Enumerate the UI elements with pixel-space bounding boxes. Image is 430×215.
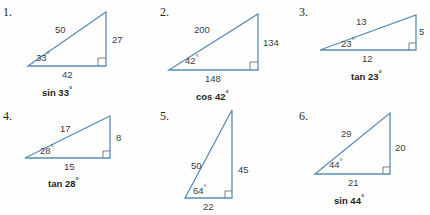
right-angle-icon-6	[383, 167, 390, 174]
hypotenuse-label-1: 50	[55, 25, 66, 35]
trig-expression-1: sin 33°	[42, 88, 72, 98]
right-angle-icon-1	[98, 58, 106, 66]
hypotenuse-label-5: 50	[191, 161, 202, 171]
triangle-outline-2	[169, 14, 258, 70]
angle-label-2: 42°	[185, 56, 199, 66]
hypotenuse-label-4: 17	[60, 124, 71, 134]
right-angle-icon-5	[225, 191, 232, 198]
trig-expression-6: sin 44°	[334, 196, 364, 206]
triangle-outline-6	[315, 113, 390, 174]
adjacent-label-4: 15	[64, 162, 75, 172]
angle-label-1: 33°	[36, 53, 50, 63]
opposite-label-6: 20	[395, 143, 406, 153]
problem-panel-2: 2. 200 134 148 42° cos 42°	[143, 0, 286, 107]
worksheet-page: 1. 50 27 42 33° sin 33° 2. 200 134 148 4…	[0, 0, 430, 215]
angle-label-4: 28°	[40, 146, 54, 156]
angle-label-6: 44°	[329, 160, 343, 170]
problem-panel-3: 3. 13 5 12 23° tan 23°	[286, 0, 429, 107]
adjacent-label-5: 22	[203, 202, 214, 212]
triangle-outline-3	[320, 15, 416, 50]
right-angle-icon-4	[103, 151, 110, 158]
adjacent-label-6: 21	[348, 178, 359, 188]
hypotenuse-label-6: 29	[341, 129, 352, 139]
opposite-label-3: 5	[419, 27, 424, 37]
problem-panel-1: 1. 50 27 42 33° sin 33°	[0, 0, 143, 107]
angle-label-5: 64°	[193, 186, 207, 196]
hypotenuse-label-3: 13	[356, 17, 367, 27]
problem-panel-5: 5. 50 45 22 64°	[143, 107, 286, 214]
problem-panel-6: 6. 29 20 21 44° sin 44°	[286, 107, 429, 214]
hypotenuse-label-2: 200	[194, 25, 210, 35]
opposite-label-2: 134	[263, 38, 279, 48]
opposite-label-5: 45	[238, 165, 249, 175]
opposite-label-4: 8	[116, 133, 121, 143]
adjacent-label-1: 42	[62, 70, 73, 80]
problem-panel-4: 4. 17 8 15 28° tan 28°	[0, 107, 143, 214]
right-angle-icon-3	[409, 43, 416, 50]
triangle-figure-5	[143, 107, 286, 214]
adjacent-label-3: 12	[362, 54, 373, 64]
right-angle-icon-2	[250, 62, 258, 70]
trig-expression-3: tan 23°	[351, 72, 382, 82]
adjacent-label-2: 148	[205, 74, 221, 84]
trig-expression-4: tan 28°	[48, 179, 79, 189]
trig-expression-2: cos 42°	[196, 92, 229, 102]
angle-label-3: 23°	[341, 39, 355, 49]
opposite-label-1: 27	[112, 35, 123, 45]
